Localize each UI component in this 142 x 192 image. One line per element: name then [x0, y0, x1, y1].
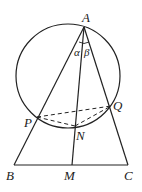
segment-PQ-dashed [37, 106, 111, 117]
label-Q: Q [113, 98, 123, 113]
label-P: P [23, 115, 32, 130]
label-A: A [81, 10, 90, 25]
geometry-diagram: A B C M N P Q α β [0, 0, 142, 192]
label-N: N [75, 128, 86, 143]
label-M: M [63, 168, 76, 183]
label-B: B [6, 168, 14, 183]
label-C: C [124, 168, 133, 183]
label-beta: β [83, 46, 90, 58]
segment-AC [84, 27, 128, 165]
label-alpha: α [74, 46, 80, 58]
angle-arc [79, 42, 89, 44]
